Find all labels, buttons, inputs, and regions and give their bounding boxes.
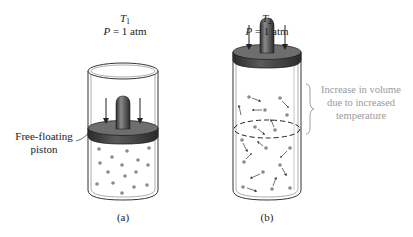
pressure-label-a: P = 1 atm <box>95 25 155 37</box>
piston-callout-line1: Free-floating <box>12 130 76 142</box>
cylinder-b <box>233 18 314 200</box>
gas-particles-a <box>95 146 151 195</box>
caption-b: (b) <box>252 211 282 223</box>
volume-annotation-line3: temperature <box>312 110 410 122</box>
pressure-label-b: P = 1 atm <box>237 25 297 37</box>
gas-particles-b <box>239 95 292 191</box>
cylinder-a <box>76 63 158 200</box>
piston-callout-line2: piston <box>12 143 76 155</box>
original-volume-outline <box>234 120 300 138</box>
volume-annotation-line2: due to increased <box>312 97 410 109</box>
volume-annotation-line1: Increase in volume <box>312 84 410 96</box>
piston-a <box>88 96 158 144</box>
caption-a: (a) <box>108 211 138 223</box>
